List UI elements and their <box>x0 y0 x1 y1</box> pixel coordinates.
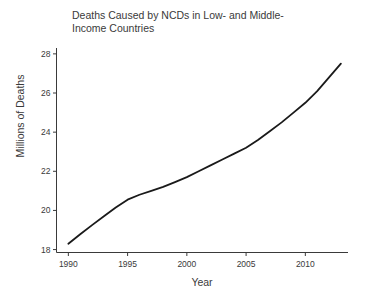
x-axis-ticks: 19901995200020052010 <box>59 253 315 269</box>
y-tick-label: 28 <box>41 49 51 59</box>
axes <box>57 48 349 253</box>
y-axis-ticks: 182022242628 <box>41 49 56 255</box>
x-tick-label: 2010 <box>296 259 315 269</box>
x-axis-title: Year <box>56 276 348 288</box>
x-tick-label: 1990 <box>59 259 78 269</box>
x-tick-label: 1995 <box>118 259 137 269</box>
y-tick-label: 26 <box>41 88 51 98</box>
y-tick-label: 18 <box>41 245 51 255</box>
line-chart-plot: 182022242628 19901995200020052010 <box>0 0 376 302</box>
y-tick-label: 22 <box>41 166 51 176</box>
y-tick-label: 24 <box>41 127 51 137</box>
data-line-series <box>68 64 341 244</box>
x-tick-label: 2000 <box>177 259 196 269</box>
chart-page: Deaths Caused by NCDs in Low- and Middle… <box>0 0 376 302</box>
y-tick-label: 20 <box>41 205 51 215</box>
x-tick-label: 2005 <box>237 259 256 269</box>
